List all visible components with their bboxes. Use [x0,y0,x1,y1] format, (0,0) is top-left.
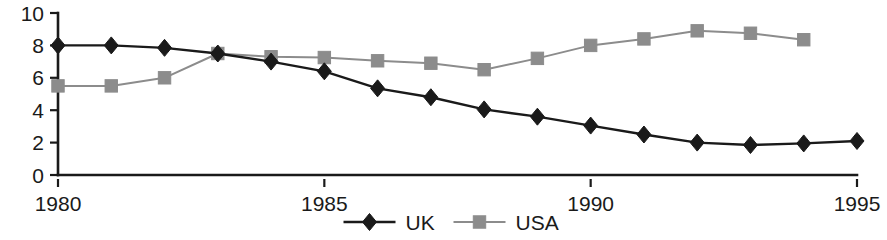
data-point-marker-square [798,34,810,46]
data-point-marker-square [52,80,64,92]
data-point-marker-square [531,52,543,64]
chart-canvas: 0246810 1980198519901995 UKUSA [0,0,887,240]
data-point-marker-square [478,64,490,76]
data-point-marker-square [158,72,170,84]
x-tick-label: 1985 [301,192,348,215]
data-point-marker-square [584,39,596,51]
x-tick-label: 1990 [567,192,614,215]
x-tick-label: 1980 [35,192,82,215]
data-point-marker-square [744,27,756,39]
legend-label-usa: USA [516,211,559,234]
data-point-marker-square [425,57,437,69]
data-point-marker-square [638,33,650,45]
x-tick-label: 1995 [834,192,881,215]
legend-label-uk: UK [406,211,435,234]
y-tick-label: 0 [32,164,44,187]
line-chart: 0246810 1980198519901995 UKUSA [0,0,887,240]
data-point-marker-square [691,25,703,37]
y-tick-label: 8 [32,34,44,57]
data-point-marker-square [318,51,330,63]
y-tick-label: 2 [32,131,44,154]
y-tick-label: 6 [32,66,44,89]
y-tick-label: 10 [21,2,44,25]
data-point-marker-square [473,216,485,228]
y-tick-label: 4 [32,99,44,122]
data-point-marker-square [105,80,117,92]
data-point-marker-square [371,55,383,67]
